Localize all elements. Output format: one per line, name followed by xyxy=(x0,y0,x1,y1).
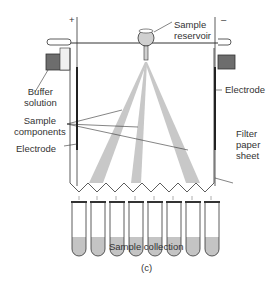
label-sample-reservoir: Samplereservoir xyxy=(174,19,211,41)
polarity-minus: – xyxy=(221,14,226,25)
buffer-tray-right xyxy=(218,55,235,69)
label-sample-components: Samplecomponents xyxy=(14,115,66,137)
label-electrode-left: Electrode xyxy=(16,143,56,154)
label-sample-collection: Sample collection xyxy=(109,241,183,252)
panel-label: (c) xyxy=(141,262,152,273)
label-electrode-right: Electrode xyxy=(225,84,265,95)
polarity-plus: + xyxy=(69,14,75,25)
label-filter-paper-sheet: Filterpapersheet xyxy=(236,128,260,161)
stream-3 xyxy=(145,62,200,183)
label-buffer-solution: Buffersolution xyxy=(24,86,57,108)
